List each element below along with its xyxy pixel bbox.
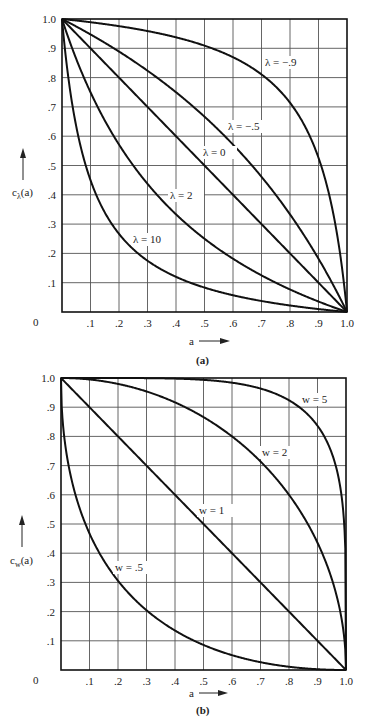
curve-label: w = 5 [302, 393, 328, 405]
panel-b-y-axis-label: cw(a) [10, 515, 33, 569]
y-tick-label: .1 [47, 635, 55, 647]
x-tick-label: .5 [200, 317, 209, 329]
panel-b-x-ticks: .1.2.3.4.5.6.7.8.91.0 [85, 675, 353, 687]
y-tick-label: .5 [47, 518, 56, 530]
x-tick-label: .1 [86, 317, 94, 329]
panel-a-origin-label: 0 [33, 316, 39, 328]
y-tick-label: .8 [48, 72, 57, 84]
y-tick-label: .1 [48, 277, 56, 289]
curve-label: λ = 10 [133, 233, 162, 245]
x-tick-label: .6 [229, 317, 238, 329]
y-tick-label: .2 [48, 247, 56, 259]
ylabel-arg: (a) [21, 186, 34, 199]
x-tick-label: .2 [115, 317, 123, 329]
panel-a-y-axis-label: cλ(a) [12, 148, 33, 201]
x-tick-label: .4 [172, 317, 181, 329]
x-tick-label: 1.0 [340, 317, 354, 329]
y-tick-label: .7 [48, 101, 57, 113]
y-tick-label: .3 [48, 218, 57, 230]
svg-text:cλ(a): cλ(a) [12, 186, 33, 201]
y-tick-label: .7 [47, 460, 56, 472]
panel-a-chart: .1.2.3.4.5.6.7.8.91.0 .1.2.3.4.5.6.7.8.9… [12, 13, 354, 367]
up-arrow-icon [19, 515, 25, 525]
panel-b-y-ticks: .1.2.3.4.5.6.7.8.91.0 [41, 372, 55, 647]
x-tick-label: .3 [142, 675, 151, 687]
y-tick-label: .2 [47, 606, 55, 618]
panel-a-x-ticks: .1.2.3.4.5.6.7.8.91.0 [86, 317, 354, 329]
up-arrow-icon [20, 148, 26, 158]
curve-label: w = .5 [115, 561, 143, 573]
svg-text:cw(a): cw(a) [10, 554, 33, 569]
x-tick-label: .3 [143, 317, 152, 329]
y-tick-label: .9 [47, 401, 56, 413]
x-tick-label: .6 [228, 675, 237, 687]
ylabel-arg: (a) [21, 554, 34, 567]
x-tick-label: 1.0 [339, 675, 353, 687]
y-tick-label: .6 [47, 489, 56, 501]
y-tick-label: .6 [48, 130, 57, 142]
y-tick-label: .5 [48, 160, 57, 172]
curve-label: λ = −.5 [228, 120, 260, 132]
curve-label: λ = 0 [203, 146, 226, 158]
curve-label: λ = −.9 [265, 56, 297, 68]
y-tick-label: .3 [47, 576, 56, 588]
panel-b-chart: .1.2.3.4.5.6.7.8.91.0 .1.2.3.4.5.6.7.8.9… [10, 372, 353, 717]
xlabel: a [189, 687, 194, 699]
figure-canvas: .1.2.3.4.5.6.7.8.91.0 .1.2.3.4.5.6.7.8.9… [0, 0, 369, 718]
x-tick-label: .9 [313, 675, 322, 687]
x-tick-label: .7 [256, 675, 265, 687]
panel-b-caption: (b) [196, 704, 210, 717]
x-tick-label: .5 [199, 675, 208, 687]
curve-label: w = 1 [199, 504, 224, 516]
y-tick-label: 1.0 [42, 13, 56, 25]
panel-b-origin-label: 0 [33, 674, 39, 686]
panel-a-curve-labels: λ = −.9λ = −.5λ = 0λ = 2λ = 10 [131, 56, 312, 246]
x-tick-label: .8 [286, 317, 295, 329]
y-tick-label: .8 [47, 430, 56, 442]
right-arrow-icon [218, 690, 228, 696]
panel-a-y-ticks: .1.2.3.4.5.6.7.8.91.0 [42, 13, 56, 289]
panel-a-caption: (a) [196, 354, 209, 367]
y-tick-label: .4 [48, 189, 57, 201]
x-tick-label: .7 [257, 317, 266, 329]
y-tick-label: .4 [47, 547, 56, 559]
x-tick-label: .8 [285, 675, 294, 687]
x-tick-label: .4 [171, 675, 180, 687]
x-tick-label: .2 [114, 675, 122, 687]
x-tick-label: .9 [314, 317, 323, 329]
y-tick-label: 1.0 [41, 372, 55, 384]
right-arrow-icon [220, 338, 230, 344]
xlabel: a [189, 335, 194, 347]
curve-label: λ = 2 [170, 189, 193, 201]
panel-b-x-axis-label: a [189, 687, 228, 699]
panel-a-x-axis-label: a [189, 335, 230, 347]
curve-label: w = 2 [262, 446, 287, 458]
y-tick-label: .9 [48, 42, 57, 54]
x-tick-label: .1 [85, 675, 93, 687]
